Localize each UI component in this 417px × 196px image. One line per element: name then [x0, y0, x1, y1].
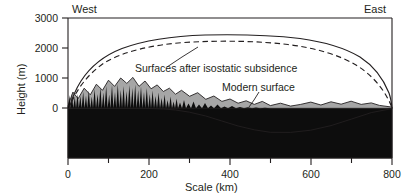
cross-section-figure: 3000 2000 1000 0 Height (m) 0 200 400 60… [0, 0, 417, 196]
y-axis-ticks [62, 18, 68, 108]
y-tick-label-1000: 1000 [24, 73, 58, 84]
west-direction-label: West [72, 4, 97, 15]
surfaces-after-subsidence-label: Surfaces after isostatic subsidence [135, 63, 297, 74]
x-tick-label-800: 800 [377, 169, 407, 180]
y-tick-label-2000: 2000 [24, 43, 58, 54]
y-axis-title: Height (m) [16, 64, 27, 115]
x-tick-label-200: 200 [134, 169, 164, 180]
x-axis-title: Scale (km) [185, 182, 238, 193]
modern-surface-label: Modern surface [222, 82, 295, 93]
east-direction-label: East [364, 4, 386, 15]
x-tick-label-400: 400 [215, 169, 245, 180]
y-tick-label-3000: 3000 [24, 13, 58, 24]
x-tick-label-0: 0 [53, 169, 83, 180]
x-tick-label-600: 600 [296, 169, 326, 180]
cross-section-plot [0, 0, 417, 196]
y-tick-label-0: 0 [24, 103, 58, 114]
x-axis-ticks [68, 158, 392, 165]
